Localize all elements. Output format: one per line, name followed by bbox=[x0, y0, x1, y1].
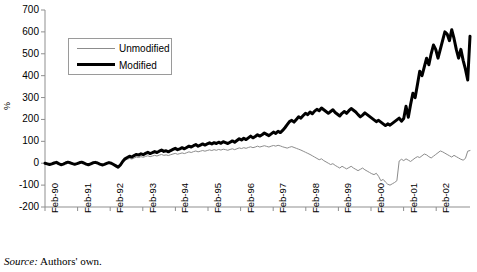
x-axis-tick-label: Feb-01 bbox=[408, 183, 419, 213]
x-axis-tick-label: Feb-99 bbox=[342, 183, 353, 213]
chart-figure: % 7006005004003002001000-100-200 Feb-90F… bbox=[0, 0, 477, 272]
source-note: Source: Authors' own. bbox=[4, 255, 102, 267]
x-axis-tick-label: Feb-93 bbox=[147, 183, 158, 213]
source-text: Authors' own. bbox=[40, 255, 102, 267]
y-axis-tick-label: 100 bbox=[3, 135, 39, 146]
x-axis-tick-label: Feb-97 bbox=[277, 183, 288, 213]
legend-entry-modified: Modified bbox=[69, 58, 173, 74]
y-axis-tick-label: 0 bbox=[3, 157, 39, 168]
y-axis-tick-label: -100 bbox=[3, 179, 39, 190]
y-axis-tick-label: 500 bbox=[3, 48, 39, 59]
legend-swatch-unmodified bbox=[77, 48, 115, 49]
x-axis-tick-label: Feb-90 bbox=[49, 183, 60, 213]
y-axis-tick-label: 700 bbox=[3, 4, 39, 15]
x-axis-tick-label: Feb-96 bbox=[245, 183, 256, 213]
source-label: Source: bbox=[4, 255, 38, 267]
x-axis-tick-label: Feb-98 bbox=[310, 183, 321, 213]
legend-swatch-modified bbox=[77, 63, 115, 66]
x-axis-tick-label: Feb-00 bbox=[375, 183, 386, 213]
y-axis-tick-label: 400 bbox=[3, 70, 39, 81]
y-axis-tick-label: 200 bbox=[3, 113, 39, 124]
series-line-unmodified bbox=[45, 145, 470, 185]
legend-entry-unmodified: Unmodified bbox=[69, 41, 173, 57]
x-axis-tick-label: Feb-91 bbox=[82, 183, 93, 213]
y-axis-label: % bbox=[2, 102, 12, 110]
legend-label-modified: Modified bbox=[119, 58, 157, 74]
legend-label-unmodified: Unmodified bbox=[119, 41, 170, 57]
x-axis-tick-label: Feb-94 bbox=[179, 183, 190, 213]
x-axis-tick-label: Feb-95 bbox=[212, 183, 223, 213]
chart-legend: Unmodified Modified bbox=[68, 38, 172, 75]
y-axis-tick-label: -200 bbox=[3, 201, 39, 212]
y-axis-tick-label: 300 bbox=[3, 92, 39, 103]
y-axis-ticks bbox=[41, 10, 45, 207]
y-axis-tick-label: 600 bbox=[3, 26, 39, 37]
x-axis-tick-label: Feb-02 bbox=[440, 183, 451, 213]
x-axis-tick-label: Feb-92 bbox=[114, 183, 125, 213]
